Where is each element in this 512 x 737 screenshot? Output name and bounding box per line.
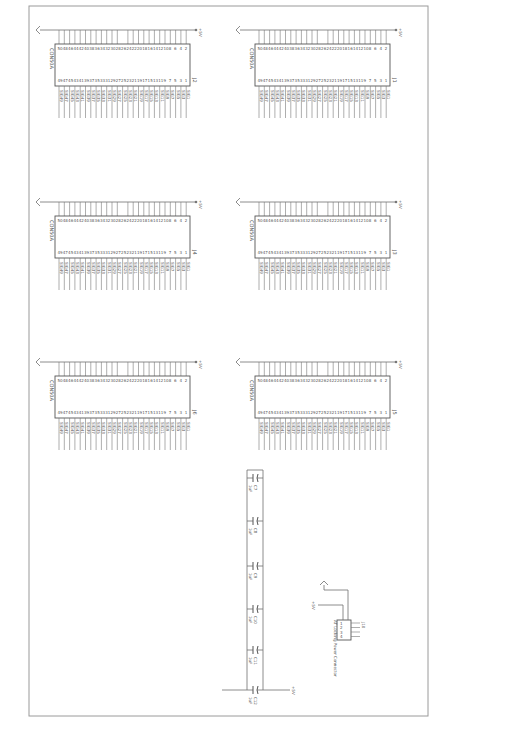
signal-label: SIG43 (75, 262, 80, 274)
signal-label: SIG31 (107, 90, 112, 102)
signal-label: SIG29 (312, 90, 317, 102)
svg-text:7: 7 (369, 410, 372, 415)
signal-label: SIG23 (328, 90, 333, 102)
signal-label: SIG33 (301, 422, 306, 434)
signal-label: SIG23 (328, 262, 333, 274)
signal-label: SIG13 (354, 262, 359, 274)
signal-label: SIG3 (381, 262, 386, 272)
signal-label: SIG15 (349, 422, 354, 434)
svg-text:6: 6 (374, 378, 377, 383)
ref-label: J5 (392, 409, 398, 415)
signal-label: SIG49 (59, 262, 64, 274)
svg-text:8: 8 (369, 218, 372, 223)
svg-text:5: 5 (174, 410, 177, 415)
signal-label: SIG47 (264, 262, 269, 274)
signal-label: SIG41 (280, 422, 285, 434)
signal-label: SIG33 (101, 90, 106, 102)
signal-label: SIG13 (354, 90, 359, 102)
signal-label: SIG27 (117, 90, 122, 102)
signal-label: SIG23 (328, 422, 333, 434)
signal-label: SIG49 (259, 262, 264, 274)
signal-label: SIG11 (160, 90, 165, 102)
schematic-sheet: +5V5049SIG494847SIG474645SIG454443SIG434… (0, 0, 512, 737)
signal-label: SIG33 (101, 262, 106, 274)
power-terminal (195, 201, 198, 204)
signal-label: SIG43 (275, 262, 280, 274)
sheet-border (29, 6, 428, 716)
connector-group: +5V5049SIG494847SIG474645SIG454443SIG434… (36, 26, 403, 450)
signal-label: SIG3 (381, 422, 386, 432)
signal-label: SIG13 (354, 422, 359, 434)
power-terminal (395, 201, 398, 204)
signal-label: SIG3 (381, 90, 386, 100)
signal-label: SIG37 (91, 422, 96, 434)
connector-j4: +5V5049SIG494847SIG474645SIG454443SIG434… (36, 198, 203, 290)
signal-label: SIG5 (176, 422, 181, 432)
signal-label: SIG41 (280, 90, 285, 102)
power-label: +5V (398, 28, 403, 37)
svg-text:3: 3 (379, 78, 382, 83)
signal-label: SIG39 (86, 262, 91, 274)
signal-label: SIG15 (349, 262, 354, 274)
svg-text:3: 3 (179, 410, 182, 415)
signal-label: SIG17 (344, 90, 349, 102)
signal-label: SIG3 (181, 262, 186, 272)
signal-label: SIG33 (301, 90, 306, 102)
signal-label: SIG27 (317, 422, 322, 434)
signal-label: SIG39 (286, 262, 291, 274)
signal-label: SIG43 (275, 90, 280, 102)
capacitor-c11: C111uF (247, 646, 263, 665)
signal-label: SIG17 (344, 262, 349, 274)
svg-text:6: 6 (174, 218, 177, 223)
signal-label: SIG29 (112, 262, 117, 274)
signal-label: SIG39 (286, 90, 291, 102)
signal-label: SIG19 (139, 422, 144, 434)
signal-label: SIG49 (59, 422, 64, 434)
ref-label: J2 (192, 77, 198, 83)
signal-label: SIG47 (264, 90, 269, 102)
signal-label: SIG5 (176, 90, 181, 100)
signal-label: SIG3 (181, 422, 186, 432)
svg-text:4: 4 (379, 46, 382, 51)
signal-label: SIG45 (270, 90, 275, 102)
signal-label: SIG33 (101, 422, 106, 434)
signal-label: SIG23 (128, 422, 133, 434)
signal-label: SIG19 (339, 422, 344, 434)
signal-label: SIG23 (128, 262, 133, 274)
signal-label: SIG35 (96, 422, 101, 434)
signal-label: SIG31 (107, 422, 112, 434)
signal-label: SIG5 (376, 262, 381, 272)
signal-label: SIG25 (323, 262, 328, 274)
signal-label: SIG9 (165, 422, 170, 432)
signal-label: SIG35 (296, 90, 301, 102)
signal-label: SIG49 (259, 90, 264, 102)
svg-text:5: 5 (374, 78, 377, 83)
signal-label: SIG1 (186, 262, 191, 272)
signal-label: SIG35 (96, 90, 101, 102)
signal-label: SIG45 (70, 90, 75, 102)
power-label: +5V (311, 601, 316, 610)
signal-label: SIG15 (149, 90, 154, 102)
signal-label: SIG11 (160, 262, 165, 274)
signal-label: SIG11 (360, 262, 365, 274)
connector-j5: +5V5049SIG494847SIG474645SIG454443SIG434… (236, 358, 403, 450)
signal-label: SIG19 (339, 90, 344, 102)
signal-label: SIG41 (80, 262, 85, 274)
svg-text:4: 4 (179, 378, 182, 383)
signal-label: SIG5 (376, 422, 381, 432)
signal-label: SIG25 (123, 262, 128, 274)
svg-text:7: 7 (369, 250, 372, 255)
signal-label: SIG17 (144, 90, 149, 102)
signal-label: SIG27 (317, 262, 322, 274)
ref-label: J10 (361, 621, 366, 629)
signal-label: SIG9 (365, 262, 370, 272)
ground-icon (36, 198, 40, 206)
signal-label: SIG9 (165, 262, 170, 272)
signal-label: SIG41 (280, 262, 285, 274)
signal-label: SIG39 (86, 422, 91, 434)
svg-text:6: 6 (174, 378, 177, 383)
signal-label: SIG45 (270, 422, 275, 434)
signal-label: SIG21 (333, 422, 338, 434)
svg-text:3: 3 (179, 78, 182, 83)
capacitor-value: 1uF (248, 616, 253, 624)
